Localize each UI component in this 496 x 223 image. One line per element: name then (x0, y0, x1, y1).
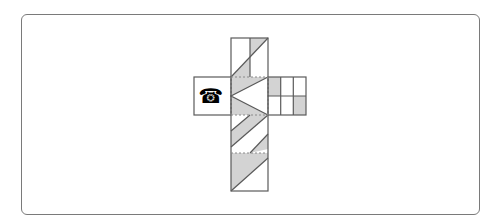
right-face-cell-shade-1 (268, 77, 281, 96)
cube-net (0, 0, 496, 223)
center-face-shade (231, 77, 268, 115)
right-face-cell-shade-2 (293, 96, 306, 115)
telephone-icon: ☎ (196, 83, 226, 109)
